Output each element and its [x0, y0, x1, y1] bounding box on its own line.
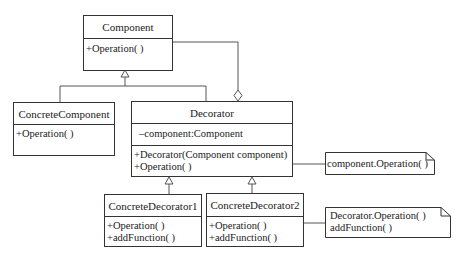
- note-line: component.Operation( ): [327, 158, 428, 170]
- note-decorator-operation: Decorator.Operation( ) addFunction( ): [330, 210, 426, 233]
- note-line: Decorator.Operation( ): [330, 210, 426, 222]
- note-component-operation: component.Operation( ): [327, 158, 428, 170]
- note-line: addFunction( ): [330, 222, 426, 234]
